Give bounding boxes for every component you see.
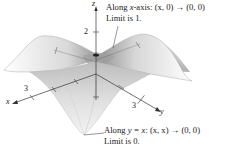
bottom-leader-line bbox=[84, 133, 104, 135]
annotation-diagonal: Along y = x: (x, x) → (0, 0) bbox=[104, 126, 200, 135]
annotation-diagonal-limit: Limit is 0. bbox=[104, 137, 140, 146]
annotation-x-axis-limit: Limit is 1. bbox=[106, 14, 142, 23]
x-axis-label: x bbox=[6, 98, 10, 106]
x-tick-label: 3 bbox=[24, 85, 28, 93]
z-tick-label: 2 bbox=[84, 28, 88, 36]
z-axis-label: z bbox=[92, 0, 95, 8]
y-tick-label: 3 bbox=[132, 102, 136, 110]
annotation-x-axis: Along x-axis: (x, 0) → (0, 0) bbox=[106, 3, 205, 12]
y-axis-label: y bbox=[160, 108, 164, 116]
